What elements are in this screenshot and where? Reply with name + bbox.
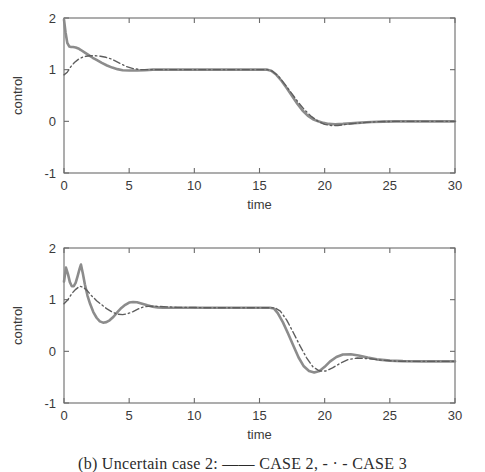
chart-b-svg: 051015202530210-1timecontrol — [0, 230, 485, 456]
x-tick-label: 25 — [383, 408, 397, 423]
x-axis-label: time — [247, 197, 272, 212]
series-line — [64, 265, 455, 373]
y-tick-label: 2 — [49, 241, 56, 256]
x-tick-label: 10 — [187, 408, 201, 423]
x-axis-label: time — [247, 427, 272, 442]
x-tick-label: 15 — [252, 408, 266, 423]
y-tick-label: 2 — [49, 11, 56, 26]
y-tick-label: 0 — [49, 344, 56, 359]
y-tick-label: -1 — [44, 396, 56, 411]
chart-panel-a: 051015202530210-1timecontrol — [0, 0, 485, 226]
chart-a-svg: 051015202530210-1timecontrol — [0, 0, 485, 226]
series-line — [64, 20, 455, 125]
axis-frame — [64, 248, 455, 403]
y-tick-label: 1 — [49, 62, 56, 77]
x-tick-label: 10 — [187, 178, 201, 193]
x-tick-label: 0 — [60, 408, 67, 423]
x-tick-label: 15 — [252, 178, 266, 193]
y-axis-label: control — [10, 306, 25, 345]
x-tick-label: 30 — [448, 408, 462, 423]
series-line — [64, 56, 455, 126]
series-line — [64, 286, 455, 371]
axis-frame — [64, 18, 455, 173]
figure-container: 051015202530210-1timecontrol 05101520253… — [0, 0, 485, 472]
x-tick-label: 20 — [317, 408, 331, 423]
x-tick-label: 5 — [126, 178, 133, 193]
chart-panel-b: 051015202530210-1timecontrol — [0, 230, 485, 456]
x-tick-label: 5 — [126, 408, 133, 423]
x-tick-label: 0 — [60, 178, 67, 193]
y-axis-label: control — [10, 76, 25, 115]
y-tick-label: -1 — [44, 166, 56, 181]
x-tick-label: 30 — [448, 178, 462, 193]
x-tick-label: 25 — [383, 178, 397, 193]
figure-caption: (b) Uncertain case 2: —— CASE 2, - · - C… — [0, 455, 485, 472]
x-tick-label: 20 — [317, 178, 331, 193]
y-tick-label: 1 — [49, 292, 56, 307]
y-tick-label: 0 — [49, 114, 56, 129]
